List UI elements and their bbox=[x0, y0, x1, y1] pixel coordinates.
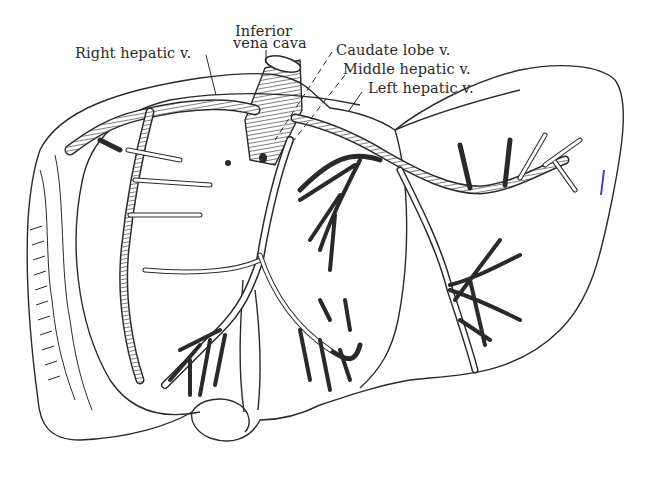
leader-left bbox=[348, 92, 362, 112]
hepatic-vein-branches bbox=[70, 105, 580, 395]
edge-mark bbox=[601, 170, 604, 195]
label-caudate-lobe: Caudate lobe v. bbox=[336, 43, 450, 58]
label-middle-hepatic: Middle hepatic v. bbox=[343, 62, 471, 77]
label-right-hepatic: Right hepatic v. bbox=[75, 46, 191, 61]
leader-right-hepatic bbox=[206, 55, 216, 95]
label-ivc-line2: vena cava bbox=[233, 36, 307, 51]
bare-area-hatching bbox=[30, 155, 92, 410]
label-left-hepatic: Left hepatic v. bbox=[368, 81, 474, 96]
liver-hepatic-veins-illustration bbox=[0, 0, 646, 480]
